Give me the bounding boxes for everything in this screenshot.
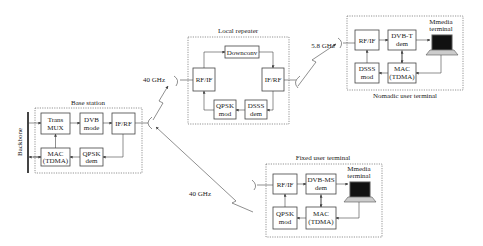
base-station-label: Base station — [71, 99, 106, 107]
nomadic-antenna-icon — [338, 38, 342, 48]
svg-text:DVB-MS: DVB-MS — [307, 176, 334, 184]
svg-text:DSSS: DSSS — [359, 65, 376, 73]
dvb-mode-block: DVB mode — [80, 113, 103, 134]
svg-text:dem: dem — [396, 40, 409, 48]
svg-text:QPSK: QPSK — [216, 102, 234, 110]
fix-mac-block: MAC (TDMA) — [306, 207, 336, 229]
nom-rf-if-block: RF/IF — [355, 30, 379, 50]
svg-text:mode: mode — [84, 124, 100, 132]
qpsk-dem-block: QPSK dem — [80, 148, 103, 166]
local-repeater-group: Local repeater Downconv RF/IF IF/RF QPSK… — [174, 27, 300, 124]
fixed-laptop-icon — [344, 182, 376, 202]
fixed-antenna-icon — [252, 180, 256, 190]
svg-text:dem: dem — [250, 110, 263, 118]
svg-text:DSSS: DSSS — [248, 102, 265, 110]
nomadic-laptop-icon — [426, 35, 458, 55]
link-5-8ghz-label: 5.8 GHz — [311, 42, 335, 50]
svg-text:RF/IF: RF/IF — [359, 37, 376, 45]
fixed-terminal-group: Fixed user terminal RF/IF DVB-MS dem QPS… — [252, 154, 382, 237]
rep-rf-if-block: RF/IF — [193, 68, 215, 91]
svg-text:mod: mod — [361, 73, 374, 81]
link-5-8ghz — [298, 44, 336, 86]
svg-text:Trans: Trans — [48, 116, 64, 124]
nom-dsss-mod-block: DSSS mod — [355, 63, 379, 83]
svg-text:DVB: DVB — [84, 116, 99, 124]
local-repeater-label: Local repeater — [218, 27, 259, 35]
svg-text:IF/RF: IF/RF — [115, 120, 132, 128]
fix-terminal-label-2: terminal — [347, 172, 370, 180]
svg-text:mod: mod — [219, 110, 232, 118]
svg-text:RF/IF: RF/IF — [277, 181, 294, 189]
trans-mux-block: Trans MUX — [41, 113, 70, 134]
link-40ghz-label-2: 40 GHz — [189, 190, 211, 198]
svg-text:RF/IF: RF/IF — [196, 76, 213, 84]
svg-text:DVB-T: DVB-T — [391, 32, 413, 40]
rep-downconv-block: Downconv — [225, 46, 259, 58]
nom-terminal-label-2: terminal — [429, 25, 452, 33]
nom-dvbt-dem-block: DVB-T dem — [388, 30, 416, 50]
svg-text:mod: mod — [279, 218, 292, 226]
svg-text:dem: dem — [315, 184, 328, 192]
svg-text:MUX: MUX — [47, 124, 63, 132]
fix-rf-if-block: RF/IF — [273, 174, 297, 194]
bs-antenna-icon — [148, 117, 152, 129]
nom-mac-block: MAC (TDMA) — [388, 63, 416, 83]
nomadic-terminal-group: Nomadic user terminal RF/IF DVB-T dem DS… — [338, 16, 463, 100]
system-block-diagram: Base station Backbone Trans MUX DVB mode… — [0, 0, 483, 246]
bs-mac-block: MAC (TDMA) — [41, 148, 70, 166]
fixed-label: Fixed user terminal — [296, 154, 350, 162]
svg-text:MAC: MAC — [394, 65, 410, 73]
rep-qpsk-mod-block: QPSK mod — [214, 100, 236, 119]
repeater-antenna-right-icon — [295, 76, 300, 88]
rep-if-rf-block: IF/RF — [262, 68, 284, 91]
nomadic-label: Nomadic user terminal — [373, 92, 437, 100]
fix-qpsk-mod-block: QPSK mod — [273, 207, 297, 229]
link-40ghz-label-1: 40 GHz — [143, 76, 165, 84]
svg-text:dem: dem — [85, 157, 98, 165]
svg-text:(TDMA): (TDMA) — [308, 218, 334, 226]
svg-text:Downconv: Downconv — [227, 49, 258, 57]
svg-text:IF/RF: IF/RF — [265, 76, 282, 84]
link-40ghz-repeater — [153, 86, 168, 120]
repeater-antenna-left-icon — [174, 76, 178, 86]
svg-text:MAC: MAC — [313, 210, 329, 218]
svg-text:(TDMA): (TDMA) — [389, 73, 415, 81]
svg-text:QPSK: QPSK — [276, 210, 294, 218]
link-40ghz-fixed — [156, 127, 253, 212]
svg-text:(TDMA): (TDMA) — [43, 157, 69, 165]
fix-dvbms-dem-block: DVB-MS dem — [306, 174, 336, 194]
backbone-label: Backbone — [16, 128, 24, 156]
base-station-group: Base station Backbone Trans MUX DVB mode… — [16, 99, 152, 173]
bs-if-rf-block: IF/RF — [112, 113, 135, 134]
rep-dsss-dem-block: DSSS dem — [245, 100, 267, 119]
